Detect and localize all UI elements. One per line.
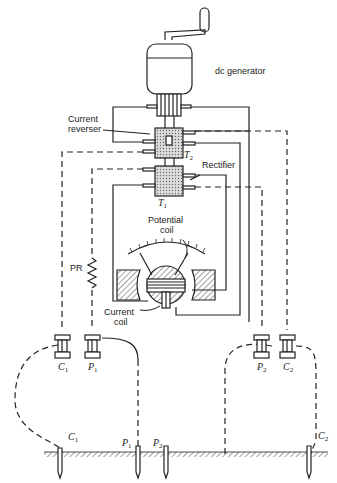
terminal-c2-icon <box>280 335 295 358</box>
current-reverser-label-1: Current <box>68 114 98 124</box>
terminal-c1-icon <box>55 335 70 358</box>
terminal-c2-label: C2 <box>283 362 293 375</box>
generator-label: dc generator <box>215 66 266 76</box>
current-reverser-label-2: reverser <box>68 124 101 134</box>
electrode-c1-label: C1 <box>68 432 78 445</box>
dc-generator-icon <box>147 44 192 116</box>
ground-icon <box>44 452 328 457</box>
terminal-p1-icon <box>85 335 100 358</box>
rectifier-icon <box>143 166 195 196</box>
electrode-c1-icon <box>58 448 62 478</box>
pr-label: PR <box>70 263 83 273</box>
electrode-c2-label: C2 <box>318 431 328 444</box>
rectifier-label: Rectifier <box>202 160 235 170</box>
electrode-c2-icon <box>307 446 311 478</box>
terminal-p2-icon <box>254 335 269 358</box>
meter-icon <box>117 238 215 311</box>
current-coil-label-1: Current <box>104 307 134 317</box>
electrode-p2-icon <box>164 446 168 478</box>
megger-diagram <box>0 0 337 483</box>
potential-coil-label-2: coil <box>160 225 174 235</box>
terminal-p1-label: P1 <box>88 362 98 375</box>
t1-label: T1 <box>158 198 167 211</box>
t2-label: T2 <box>184 150 193 163</box>
electrode-p2-label: P2 <box>153 438 163 451</box>
electrode-p1-label: P1 <box>122 438 132 451</box>
resistor-icon <box>88 258 96 288</box>
terminal-p2-label: P2 <box>257 362 267 375</box>
electrode-p1-icon <box>136 446 140 478</box>
terminal-c1-label: C1 <box>58 362 68 375</box>
crank-handle-icon <box>165 8 209 40</box>
potential-coil-label-1: Potential <box>148 215 183 225</box>
current-coil-label-2: coil <box>114 317 128 327</box>
